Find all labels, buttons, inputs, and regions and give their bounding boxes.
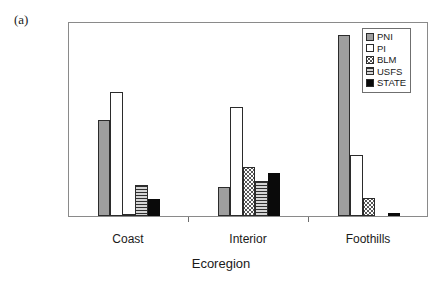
legend-label: STATE (377, 78, 406, 88)
x-axis-title: Ecoregion (0, 256, 442, 271)
bar-state-coast (148, 199, 160, 216)
bar-pi-coast (110, 92, 122, 216)
legend-label: PI (377, 44, 386, 54)
legend-label: PNI (377, 32, 393, 42)
x-axis-tick-mark (188, 217, 189, 222)
panel-label: (a) (14, 12, 28, 28)
bar-blm-foothills (363, 198, 375, 216)
bar-usfs-coast (135, 185, 147, 216)
legend-item-pni: PNI (366, 31, 406, 43)
legend-swatch-icon (366, 67, 374, 75)
x-axis-group-label: Foothills (318, 232, 418, 246)
x-axis-group-label: Interior (198, 232, 298, 246)
bar-pi-interior (230, 107, 242, 216)
legend-swatch-icon (366, 44, 374, 52)
bar-blm-interior (243, 167, 255, 216)
legend-swatch-icon (366, 79, 374, 87)
bar-pni-interior (218, 187, 230, 216)
legend: PNIPIBLMUSFSSTATE (362, 28, 411, 93)
bar-pi-foothills (350, 155, 362, 216)
bar-state-interior (268, 173, 280, 216)
bar-blm-coast (123, 214, 135, 216)
bar-usfs-interior (255, 181, 267, 216)
x-axis-tick-mark (308, 217, 309, 222)
legend-item-state: STATE (366, 77, 406, 89)
legend-item-usfs: USFS (366, 66, 406, 78)
legend-swatch-icon (366, 33, 374, 41)
legend-item-pi: PI (366, 43, 406, 55)
x-axis-group-label: Coast (78, 232, 178, 246)
legend-label: USFS (377, 67, 402, 77)
legend-item-blm: BLM (366, 54, 406, 66)
bar-state-foothills (388, 213, 400, 216)
bar-pni-foothills (338, 35, 350, 216)
bar-pni-coast (98, 120, 110, 216)
legend-swatch-icon (366, 56, 374, 64)
chart-figure: (a) Percent of Ecoregion 010203040506070… (0, 0, 442, 281)
legend-label: BLM (377, 55, 397, 65)
